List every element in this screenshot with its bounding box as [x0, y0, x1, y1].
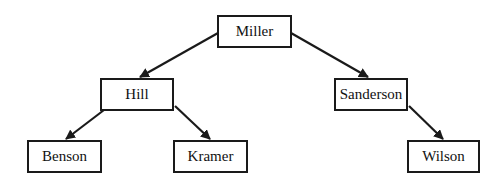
edge-hill-kramer — [175, 106, 210, 139]
edge-miller-sanderson — [291, 33, 368, 77]
node-wilson: Wilson — [407, 140, 480, 173]
org-tree-diagram: Miller Hill Sanderson Benson Kramer Wils… — [0, 0, 501, 185]
node-kramer: Kramer — [173, 140, 248, 173]
node-sanderson: Sanderson — [334, 78, 408, 111]
edge-sanderson-wilson — [409, 106, 443, 139]
node-benson: Benson — [27, 140, 102, 173]
edge-hill-benson — [66, 110, 104, 139]
node-miller: Miller — [217, 15, 292, 48]
edge-miller-hill — [140, 33, 218, 77]
node-hill: Hill — [100, 78, 174, 111]
